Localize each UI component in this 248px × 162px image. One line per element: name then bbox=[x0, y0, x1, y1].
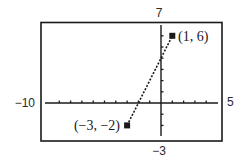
point-label-end: (1, 6) bbox=[178, 29, 209, 45]
window-ymin-label: −3 bbox=[152, 144, 166, 158]
endpoint-marker bbox=[124, 122, 130, 128]
window-xmax-label: 5 bbox=[227, 95, 234, 109]
graph-window: −10 5 7 −3 (1, 6) (−3, −2) bbox=[0, 0, 248, 162]
endpoint-marker bbox=[169, 33, 175, 39]
line-segment bbox=[124, 33, 175, 129]
window-xmin-label: −10 bbox=[15, 96, 36, 110]
point-label-start: (−3, −2) bbox=[74, 118, 120, 134]
window-ymax-label: 7 bbox=[156, 6, 163, 20]
segment-line bbox=[127, 36, 172, 126]
